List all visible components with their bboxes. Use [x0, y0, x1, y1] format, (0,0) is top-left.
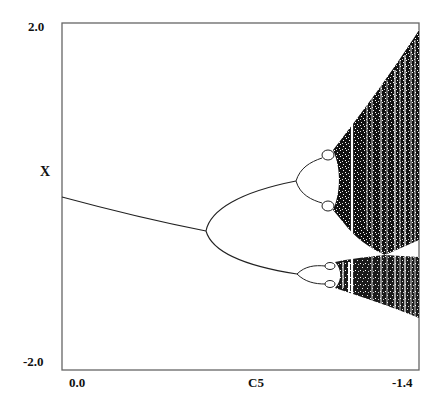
- bifurcation-chart: 2.0 -2.0 X 0.0 C5 -1.4: [0, 0, 442, 414]
- period8-bubble-c: [325, 263, 335, 270]
- x-axis-left-label: 0.0: [69, 375, 85, 391]
- x-axis-right-label: -1.4: [392, 375, 413, 391]
- upper-chaotic-band: [333, 30, 419, 255]
- period4-a: [296, 158, 322, 181]
- period4-c: [297, 266, 325, 274]
- chart-plot-area: [0, 0, 442, 414]
- period2-lower-branch: [206, 231, 297, 274]
- y-axis-max-label: 2.0: [28, 19, 44, 35]
- period4-d: [297, 274, 325, 284]
- period4-b: [296, 181, 322, 203]
- y-axis-min-label: -2.0: [23, 354, 44, 370]
- period8-bubble-d: [325, 281, 335, 288]
- y-axis-title: X: [40, 164, 50, 180]
- lower-chaotic-band: [335, 255, 419, 318]
- period8-bubble-b: [322, 201, 334, 211]
- period8-bubble-a: [322, 150, 334, 160]
- x-axis-mid-label: C5: [248, 375, 264, 391]
- fixed-point-branch: [62, 197, 206, 231]
- period2-upper-branch: [206, 181, 296, 231]
